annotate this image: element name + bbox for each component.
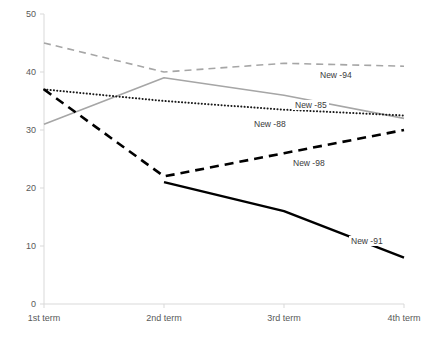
y-axis-tick-label: 0 <box>12 299 36 309</box>
x-axis-tick-label: 4th term <box>369 313 434 323</box>
series-label-new-88: New -88 <box>252 119 288 129</box>
x-axis-tick-label: 2nd term <box>129 313 199 323</box>
line-chart: 01020304050 1st term2nd term3rd term4th … <box>0 0 434 344</box>
x-axis-tick-label: 1st term <box>9 313 79 323</box>
series-line-new-91 <box>164 182 404 257</box>
y-axis-tick-label: 20 <box>12 183 36 193</box>
series-label-new-94: New -94 <box>318 70 354 80</box>
y-axis-tick-label: 40 <box>12 67 36 77</box>
series-line-new-85 <box>44 78 404 124</box>
y-axis-tick-label: 10 <box>12 241 36 251</box>
series-line-new-88 <box>44 89 404 115</box>
series-label-new-91: New -91 <box>349 236 385 246</box>
series-line-new-94 <box>44 43 404 72</box>
y-axis-tick-label: 30 <box>12 125 36 135</box>
y-axis-tick-label: 50 <box>12 9 36 19</box>
chart-canvas <box>0 0 434 344</box>
series-label-new-98: New -98 <box>291 158 327 168</box>
series-label-new-85: New -85 <box>293 100 329 110</box>
x-axis-tick-label: 3rd term <box>249 313 319 323</box>
series-line-new-98 <box>44 89 404 176</box>
chart-axes <box>40 14 404 308</box>
